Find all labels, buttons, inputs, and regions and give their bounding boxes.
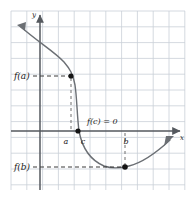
f-of-c-equals-zero-label: f(c) = 0 bbox=[86, 117, 118, 126]
tick-label-b: b bbox=[123, 137, 128, 146]
point-c bbox=[75, 128, 80, 133]
figure-container: x y f(a) f(b) f(c) = 0 a c b bbox=[0, 0, 191, 197]
tick-label-c: c bbox=[81, 137, 86, 146]
point-b bbox=[122, 164, 128, 170]
f-of-a-label: f(a) bbox=[13, 71, 30, 81]
graph-figure: x y f(a) f(b) f(c) = 0 a c b bbox=[0, 0, 191, 197]
point-a bbox=[68, 73, 73, 78]
x-axis-label: x bbox=[180, 134, 184, 142]
tick-label-a: a bbox=[64, 137, 69, 146]
f-of-b-label: f(b) bbox=[13, 162, 31, 172]
